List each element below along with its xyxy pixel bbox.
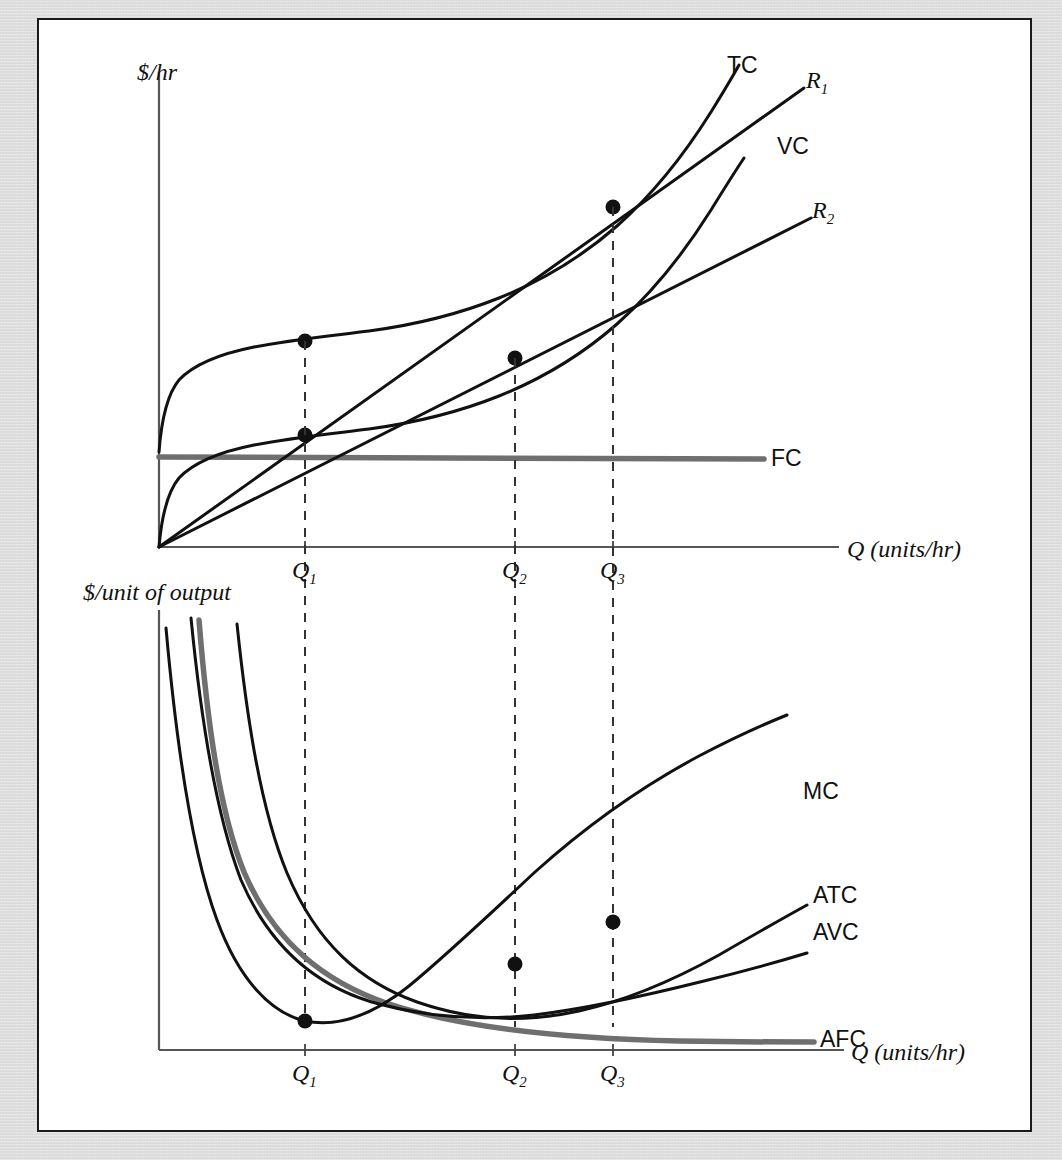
- vc-label: VC: [777, 135, 809, 158]
- mc-curve: [166, 628, 787, 1023]
- r2-label-text: R: [812, 197, 827, 223]
- r2-line: [159, 218, 811, 547]
- r2-label: R2: [812, 198, 834, 227]
- figure-panel: $/hr TC R1 VC R2 FC Q (units/hr) Q1 Q2 Q…: [37, 18, 1032, 1132]
- atc-curve: [237, 624, 807, 1018]
- vc-curve: [159, 158, 744, 547]
- r1-line: [159, 88, 804, 547]
- lower-y-axis-label: $/unit of output: [83, 580, 231, 604]
- upper-chart-group: [159, 65, 839, 553]
- lower-tick-label-q1: Q1: [292, 1061, 317, 1090]
- r2-label-sub: 2: [827, 211, 834, 227]
- upper-tick-q3-sub: 3: [617, 571, 624, 587]
- fc-label: FC: [771, 447, 802, 470]
- lower-tick-label-q2: Q2: [502, 1061, 527, 1090]
- lower-tick-q2-text: Q: [502, 1060, 519, 1086]
- quantity-guide-lines: [305, 207, 613, 1027]
- upper-tick-q2-sub: 2: [519, 571, 526, 587]
- tc-label: TC: [727, 54, 758, 77]
- lower-point-q3-mc-atc: [606, 915, 621, 930]
- economics-cost-curves-figure: [39, 20, 1034, 1134]
- upper-tick-q1-sub: 1: [309, 571, 316, 587]
- r1-label: R1: [806, 68, 828, 97]
- avc-label: AVC: [813, 921, 859, 944]
- upper-tick-q3-text: Q: [600, 557, 617, 583]
- upper-tick-label-q3: Q3: [600, 558, 625, 587]
- fc-curve: [159, 457, 764, 459]
- lower-x-axis-label: Q (units/hr): [851, 1040, 965, 1064]
- tc-curve: [159, 65, 739, 452]
- upper-tick-q1-text: Q: [292, 557, 309, 583]
- lower-tick-q2-sub: 2: [519, 1074, 526, 1090]
- r1-label-text: R: [806, 67, 821, 93]
- lower-tick-label-q3: Q3: [600, 1061, 625, 1090]
- lower-tick-q1-sub: 1: [309, 1074, 316, 1090]
- lower-tick-q3-text: Q: [600, 1060, 617, 1086]
- lower-tick-q1-text: Q: [292, 1060, 309, 1086]
- mc-label: MC: [803, 780, 839, 803]
- lower-chart-group: [159, 610, 844, 1056]
- r1-label-sub: 1: [821, 81, 828, 97]
- upper-tick-label-q1: Q1: [292, 558, 317, 587]
- lower-tick-q3-sub: 3: [617, 1074, 624, 1090]
- upper-tick-q2-text: Q: [502, 557, 519, 583]
- upper-y-axis-label: $/hr: [137, 60, 177, 84]
- upper-x-axis-label: Q (units/hr): [847, 537, 961, 561]
- afc-curve: [199, 620, 814, 1042]
- lower-point-q1-mc: [298, 1014, 313, 1029]
- lower-point-q2-mc-avc: [508, 957, 523, 972]
- atc-label: ATC: [813, 884, 857, 907]
- upper-tick-label-q2: Q2: [502, 558, 527, 587]
